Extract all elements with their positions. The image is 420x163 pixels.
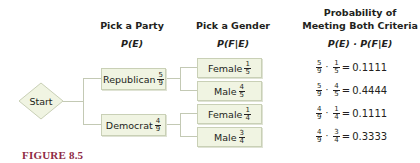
result-factor-a: 59 xyxy=(316,60,322,75)
connector-republican-vertical xyxy=(180,67,181,90)
equals-sign: = xyxy=(342,62,350,73)
connector-to-democrat xyxy=(83,124,101,125)
result-row: 49 · 34 = 0.3333 xyxy=(314,127,387,145)
probability-column-formula: P(E) · P(F|E) xyxy=(300,38,420,49)
result-factor-a: 49 xyxy=(316,129,322,144)
result-factor-a: 49 xyxy=(316,106,322,121)
probability-column-title-line2: Meeting Both Criteria xyxy=(300,20,420,32)
party-probability-fraction: 5 9 xyxy=(157,72,163,87)
result-row: 59 · 15 = 0.1111 xyxy=(314,58,387,76)
party-column-formula: P(E) xyxy=(92,38,172,49)
result-value: 0.1111 xyxy=(352,108,387,119)
figure-caption: FIGURE 8.5 xyxy=(22,149,83,161)
start-label: Start xyxy=(18,82,64,120)
connector-start-stem xyxy=(62,101,83,102)
party-box-republican: Republican 5 9 xyxy=(101,68,166,90)
connector-democrat-stem xyxy=(165,124,180,125)
multiply-dot: · xyxy=(325,131,328,141)
connector-to-female-1 xyxy=(180,67,197,68)
party-probability-fraction: 4 9 xyxy=(155,118,161,133)
fraction-denominator: 5 xyxy=(244,69,250,76)
connector-party-vertical xyxy=(83,78,84,124)
result-value: 0.3333 xyxy=(352,131,387,142)
connector-to-male-1 xyxy=(180,90,197,91)
party-label: Democrat xyxy=(106,120,153,131)
gender-box-female-republican: Female 1 5 xyxy=(197,58,262,78)
multiply-dot: · xyxy=(325,62,328,72)
gender-label: Female xyxy=(208,109,242,120)
fraction-denominator: 9 xyxy=(316,137,322,144)
connector-republican-stem xyxy=(165,78,180,79)
fraction-denominator: 5 xyxy=(333,91,339,98)
fraction-denominator: 4 xyxy=(239,138,245,145)
gender-box-female-democrat: Female 1 4 xyxy=(197,104,262,124)
equals-sign: = xyxy=(342,108,350,119)
gender-column-title: Pick a Gender xyxy=(188,20,278,32)
multiply-dot: · xyxy=(325,108,328,118)
result-factor-b: 14 xyxy=(333,106,339,121)
multiply-dot: · xyxy=(325,85,328,95)
party-column-title: Pick a Party xyxy=(92,20,172,32)
equals-sign: = xyxy=(342,131,350,142)
fraction-denominator: 9 xyxy=(316,68,322,75)
probability-column-title-line1: Probability of xyxy=(300,7,420,19)
fraction-denominator: 5 xyxy=(333,68,339,75)
connector-to-republican xyxy=(83,78,101,79)
connector-to-female-2 xyxy=(180,113,197,114)
result-factor-a: 59 xyxy=(316,83,322,98)
gender-column-formula: P(F|E) xyxy=(188,38,278,49)
gender-probability-fraction: 3 4 xyxy=(239,130,245,145)
party-label: Republican xyxy=(103,74,155,85)
gender-label: Male xyxy=(214,86,237,97)
gender-box-male-republican: Male 4 5 xyxy=(197,81,262,101)
gender-box-male-democrat: Male 3 4 xyxy=(197,127,262,147)
fraction-denominator: 9 xyxy=(155,126,161,133)
result-value: 0.1111 xyxy=(352,62,387,73)
fraction-denominator: 5 xyxy=(239,92,245,99)
result-factor-b: 34 xyxy=(333,129,339,144)
gender-label: Male xyxy=(214,132,237,143)
result-factor-b: 45 xyxy=(333,83,339,98)
connector-democrat-vertical xyxy=(180,113,181,136)
result-row: 49 · 14 = 0.1111 xyxy=(314,104,387,122)
result-row: 59 · 45 = 0.4444 xyxy=(314,81,387,99)
result-factor-b: 15 xyxy=(333,60,339,75)
gender-label: Female xyxy=(208,63,242,74)
start-node: Start xyxy=(18,82,64,120)
party-box-democrat: Democrat 4 9 xyxy=(101,114,166,136)
fraction-denominator: 4 xyxy=(333,137,339,144)
fraction-denominator: 4 xyxy=(244,115,250,122)
gender-probability-fraction: 1 5 xyxy=(244,61,250,76)
equals-sign: = xyxy=(342,85,350,96)
fraction-denominator: 9 xyxy=(316,114,322,121)
gender-probability-fraction: 4 5 xyxy=(239,84,245,99)
fraction-denominator: 4 xyxy=(333,114,339,121)
gender-probability-fraction: 1 4 xyxy=(244,107,250,122)
connector-to-male-2 xyxy=(180,136,197,137)
fraction-denominator: 9 xyxy=(316,91,322,98)
result-value: 0.4444 xyxy=(352,85,387,96)
fraction-denominator: 9 xyxy=(157,80,163,87)
